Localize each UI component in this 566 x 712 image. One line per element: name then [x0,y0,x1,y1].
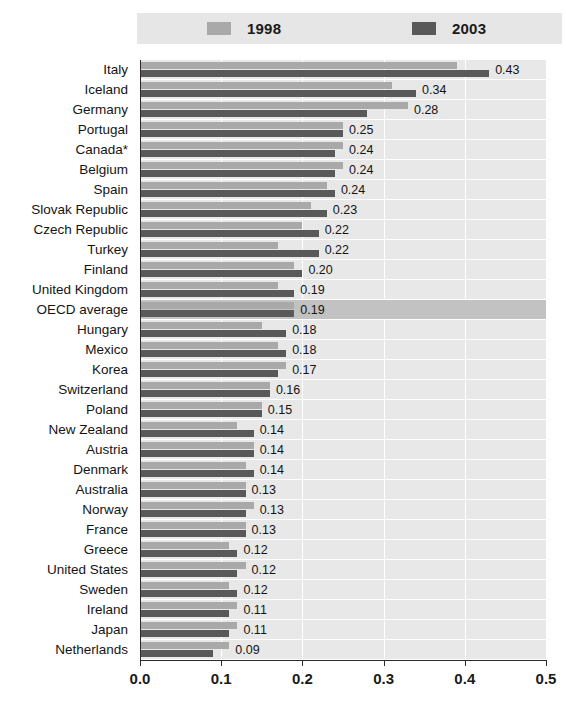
category-label: Slovak Republic [0,200,134,220]
category-label: Ireland [0,600,134,620]
bar-1998 [140,582,229,589]
x-axis-tick-label: 0.3 [373,670,394,687]
bar-row: 0.18 [140,340,546,360]
bar-value-label: 0.25 [349,123,373,137]
bar-1998 [140,222,302,229]
category-label: Norway [0,500,134,520]
bar-1998 [140,362,286,369]
category-label: Japan [0,620,134,640]
bar-1998 [140,142,343,149]
bar-value-label: 0.43 [495,63,519,77]
bar-2003 [140,570,237,577]
bar-2003 [140,490,246,497]
x-axis-tick-label: 0.2 [292,670,313,687]
bar-2003 [140,170,335,177]
bar-2003 [140,470,254,477]
bar-value-label: 0.12 [243,583,267,597]
category-label: Denmark [0,460,134,480]
legend-item-1998: 1998 [207,13,281,44]
legend-label-1998: 1998 [247,20,281,37]
bar-value-label: 0.34 [422,83,446,97]
bar-2003 [140,210,327,217]
bar-2003 [140,110,367,117]
bar-row: 0.12 [140,560,546,580]
bar-1998 [140,422,237,429]
bar-value-label: 0.22 [325,243,349,257]
bar-value-label: 0.11 [243,623,266,637]
bar-1998 [140,482,246,489]
bar-row: 0.24 [140,180,546,200]
bar-1998 [140,282,278,289]
bar-row: 0.22 [140,240,546,260]
category-label: Poland [0,400,134,420]
bar-value-label: 0.16 [276,383,300,397]
x-axis-tick [302,660,303,666]
bar-2003 [140,590,237,597]
bar-row: 0.22 [140,220,546,240]
bar-row: 0.13 [140,500,546,520]
bar-value-label: 0.24 [349,163,373,177]
bar-value-label: 0.15 [268,403,292,417]
bar-value-label: 0.23 [333,203,357,217]
bar-2003 [140,190,335,197]
category-label: Iceland [0,80,134,100]
category-label: Switzerland [0,380,134,400]
bar-1998 [140,262,294,269]
category-label: Korea [0,360,134,380]
bar-2003 [140,550,237,557]
bar-1998 [140,562,246,569]
bar-row: 0.14 [140,440,546,460]
bar-value-label: 0.13 [252,483,276,497]
bar-row: 0.16 [140,380,546,400]
category-label: OECD average [0,300,134,320]
category-label: United States [0,560,134,580]
category-label: Netherlands [0,640,134,660]
bar-2003 [140,310,294,317]
bar-row: 0.09 [140,640,546,660]
bar-2003 [140,250,319,257]
bar-1998 [140,322,262,329]
category-label: Germany [0,100,134,120]
bar-value-label: 0.14 [260,443,284,457]
bar-value-label: 0.12 [252,563,276,577]
category-label: Hungary [0,320,134,340]
bar-1998 [140,202,311,209]
x-axis-tick [465,660,466,666]
bar-2003 [140,150,335,157]
bar-value-label: 0.19 [300,283,324,297]
bar-2003 [140,230,319,237]
plot-area: 0.430.340.280.250.240.240.240.230.220.22… [140,60,546,660]
bar-row: 0.12 [140,540,546,560]
chart-legend: 1998 2003 [137,13,562,44]
category-label: Austria [0,440,134,460]
legend-swatch-2003-icon [412,22,436,35]
bar-row: 0.20 [140,260,546,280]
bar-2003 [140,390,270,397]
bar-row: 0.13 [140,520,546,540]
bar-value-label: 0.14 [260,423,284,437]
category-label: Finland [0,260,134,280]
bar-value-label: 0.12 [243,543,267,557]
bar-row: 0.19 [140,300,546,320]
bar-2003 [140,630,229,637]
bar-2003 [140,330,286,337]
gridline [546,60,547,660]
legend-label-2003: 2003 [452,20,486,37]
bar-row: 0.23 [140,200,546,220]
category-label: Australia [0,480,134,500]
bar-row: 0.13 [140,480,546,500]
bar-value-label: 0.17 [292,363,316,377]
bar-row: 0.14 [140,420,546,440]
bar-value-label: 0.11 [243,603,266,617]
y-axis-line [140,60,141,660]
bar-2003 [140,410,262,417]
bar-value-label: 0.22 [325,223,349,237]
bar-value-label: 0.18 [292,323,316,337]
category-label: New Zealand [0,420,134,440]
bar-value-label: 0.13 [260,503,284,517]
bar-1998 [140,442,254,449]
category-label: United Kingdom [0,280,134,300]
bar-1998 [140,102,408,109]
bar-row: 0.25 [140,120,546,140]
bar-row: 0.15 [140,400,546,420]
